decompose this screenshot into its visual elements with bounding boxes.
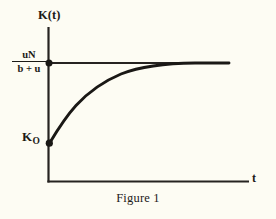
initial-value-label: KO	[22, 130, 40, 147]
initial-value-point-marker	[46, 140, 53, 147]
y-axis-label: K(t)	[38, 9, 61, 22]
asymptote-value-label: uN b + u	[12, 49, 46, 74]
x-axis-label: t	[252, 172, 256, 184]
asymptote-numerator: uN	[12, 49, 46, 61]
saturation-curve	[50, 63, 230, 143]
initial-value-base: K	[22, 129, 32, 144]
asymptote-point-marker	[46, 60, 53, 67]
asymptote-denominator: b + u	[12, 62, 46, 74]
initial-value-subscript: O	[33, 136, 40, 146]
figure-caption: Figure 1	[0, 191, 276, 206]
plot-area	[0, 0, 276, 219]
figure-container: K(t) t uN b + u KO Figure 1	[0, 0, 276, 219]
